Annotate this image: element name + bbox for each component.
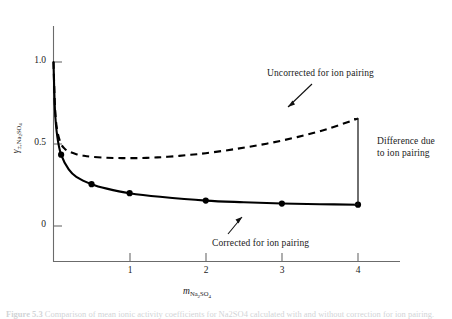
series-corrected-markers: [58, 152, 361, 208]
annotation-difference-line2: to ion pairing: [377, 148, 430, 158]
y-axis-label-main: γ: [11, 150, 21, 154]
figure-container: 1.0 0.5 0 1 2 3 4 mNa2SO4 γ±,Na2SO4 Unco…: [0, 0, 452, 319]
y-axis-label-sub-pm: ±,: [15, 144, 22, 149]
x-axis-label-sub: Na2SO4: [190, 290, 211, 297]
x-axis-label-sub-na: Na: [190, 290, 198, 297]
x-tick-label-4: 4: [348, 265, 368, 275]
figure-caption-text: Comparison of mean ionic activity coeffi…: [45, 309, 434, 319]
annotation-difference: Difference due to ion pairing: [377, 136, 449, 159]
y-axis-label-sub: ±,Na2SO4: [15, 123, 22, 149]
x-axis-label-sub-4: 4: [209, 294, 212, 299]
difference-bracket-line: [354, 119, 358, 205]
y-axis-label: γ±,Na2SO4: [11, 108, 24, 168]
annotation-corrected: Corrected for ion pairing: [212, 238, 309, 250]
x-axis-label: mNa2SO4: [183, 286, 211, 299]
x-axis-ticks: [130, 253, 358, 262]
x-tick-label-2: 2: [196, 265, 216, 275]
y-axis-label-sub-na: Na: [15, 137, 22, 145]
y-tick-label-0.5: 0.5: [20, 137, 46, 147]
x-tick-label-3: 3: [272, 265, 292, 275]
y-tick-label-1.0: 1.0: [20, 55, 46, 65]
x-axis-label-sub-so: SO: [200, 290, 208, 297]
difference-bracket: [354, 119, 358, 205]
y-tick-label-0: 0: [20, 219, 46, 229]
chart-plot-area: [0, 0, 452, 319]
annotation-difference-line1: Difference due: [377, 136, 435, 146]
figure-caption: Figure 5.3 Comparison of mean ionic acti…: [6, 309, 446, 319]
x-tick-label-1: 1: [120, 265, 140, 275]
axes-group: [54, 26, 401, 262]
data-point: [127, 190, 133, 196]
data-point: [203, 197, 209, 203]
figure-number: Figure 5.3: [6, 309, 43, 319]
x-axis-label-main: m: [183, 286, 190, 296]
leader-arrowhead-corrected: [236, 217, 243, 224]
data-point: [88, 181, 94, 187]
y-axis-label-sub-4: 4: [18, 123, 23, 126]
data-point: [279, 200, 285, 206]
annotation-leader-lines: [228, 84, 312, 234]
y-axis-label-sub-so: SO: [15, 126, 22, 134]
y-axis-label-sub-2: 2: [18, 134, 23, 137]
data-point: [58, 152, 64, 158]
annotation-uncorrected: Uncorrected for ion pairing: [267, 68, 374, 80]
